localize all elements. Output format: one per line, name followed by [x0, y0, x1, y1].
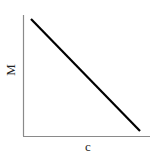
data-line — [31, 19, 140, 131]
chart-plot — [0, 0, 153, 154]
y-axis-label: M — [3, 61, 19, 79]
x-axis-label: c — [82, 139, 94, 154]
